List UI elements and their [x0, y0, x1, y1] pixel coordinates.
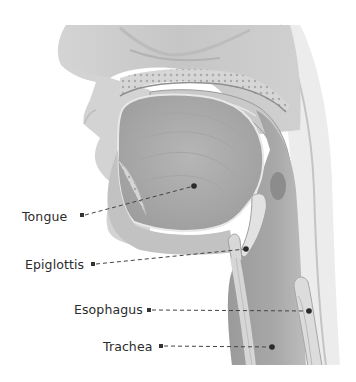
marker-square-tongue	[80, 213, 84, 217]
adenoid-tissue	[270, 172, 286, 200]
marker-square-esophagus	[147, 308, 151, 312]
tongue-body	[118, 95, 264, 231]
throat-anatomy-illustration	[0, 0, 356, 382]
marker-square-epiglottis	[91, 262, 95, 266]
marker-square-trachea	[159, 344, 163, 348]
label-tongue: Tongue	[22, 210, 67, 224]
label-epiglottis: Epiglottis	[25, 258, 84, 272]
target-dot-epiglottis	[243, 246, 249, 252]
label-trachea: Trachea	[103, 340, 152, 354]
target-dot-trachea	[269, 344, 275, 350]
label-esophagus: Esophagus	[74, 303, 143, 317]
target-dot-esophagus	[306, 308, 312, 314]
target-dot-tongue	[191, 183, 197, 189]
